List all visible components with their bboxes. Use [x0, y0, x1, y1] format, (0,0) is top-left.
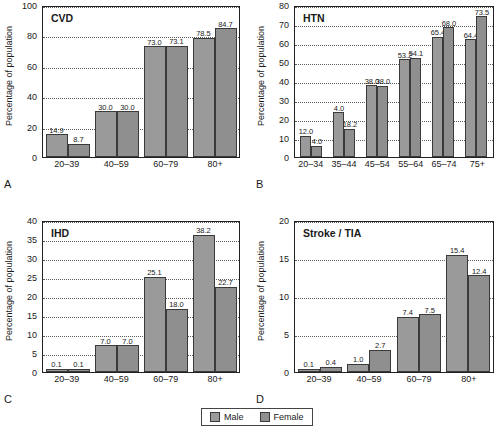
- y-tick-label: 40: [279, 77, 289, 87]
- bar-female: 12.4: [468, 275, 490, 372]
- legend-item-female: Female: [260, 412, 304, 422]
- bar-female: 8.7: [68, 144, 90, 157]
- y-tick-label: 20: [27, 123, 37, 133]
- bar-female: 7.5: [419, 314, 441, 372]
- bar-female: 7.0: [117, 345, 139, 372]
- y-tick-label: 60: [27, 62, 37, 72]
- x-tick-label: 55–64: [394, 159, 427, 169]
- bar-female: 4.0: [311, 146, 322, 157]
- x-tick-label: 60–79: [141, 374, 191, 384]
- y-tick-label: 10: [279, 292, 289, 302]
- y-axis-ticks-ihd: 0510152025303540: [14, 221, 40, 373]
- bar-value-label: 73.0: [147, 39, 162, 47]
- bar-group: 7.47.5: [394, 222, 444, 372]
- x-tick-label: 20–39: [294, 374, 344, 384]
- bar-value-label: 7.5: [425, 307, 435, 315]
- plot-area-cvd: CVD14.98.730.030.073.073.178.584.7: [42, 6, 240, 158]
- bar-value-label: 4.0: [334, 105, 344, 113]
- bar-female: 73.1: [166, 46, 188, 157]
- x-tick-label: 80+: [191, 159, 241, 169]
- bar-group: 0.10.1: [43, 222, 92, 372]
- bar-value-label: 12.4: [472, 268, 487, 276]
- bar-male: 0.1: [298, 369, 320, 372]
- bar-value-label: 2.7: [375, 342, 385, 350]
- x-tick-label: 35–44: [327, 159, 360, 169]
- x-axis-ticks-htn: 20–3435–4445–5455–6465–7475+: [294, 159, 494, 169]
- bar-group: 65.468.0: [427, 7, 460, 157]
- bar-female: 68.0: [443, 27, 454, 157]
- bar-male: 4.0: [333, 112, 344, 157]
- y-tick-label: 20: [279, 115, 289, 125]
- panel-ihd: Percentage of population0510152025303540…: [0, 215, 252, 425]
- bar-group: 30.030.0: [92, 7, 141, 157]
- bar-male: 12.0: [300, 136, 311, 157]
- bar-female: 2.7: [369, 350, 391, 372]
- bar-group: 38.038.0: [361, 7, 394, 157]
- bar-value-label: 7.4: [403, 309, 413, 317]
- x-tick-label: 20–34: [294, 159, 327, 169]
- bar-male: 73.0: [144, 46, 166, 157]
- x-tick-label: 40–59: [344, 374, 394, 384]
- bar-value-label: 38.2: [196, 227, 211, 235]
- panel-stroke-tia: Percentage of population05101520Stroke /…: [252, 215, 503, 425]
- legend-swatch-male: [210, 412, 220, 422]
- y-tick-label: 80: [27, 31, 37, 41]
- bar-value-label: 30.0: [120, 104, 135, 112]
- y-tick-label: 10: [27, 330, 37, 340]
- x-tick-label: 75+: [461, 159, 494, 169]
- bar-female: 84.7: [215, 28, 237, 157]
- x-tick-label: 45–54: [361, 159, 394, 169]
- bar-value-label: 1.0: [353, 356, 363, 364]
- bar-value-label: 0.4: [326, 359, 336, 367]
- plot-area-ihd: IHD0.10.17.07.025.118.038.222.7: [42, 221, 240, 373]
- bar-female: 0.4: [320, 367, 342, 372]
- y-tick-label: 0: [284, 153, 289, 163]
- bar-female: 18.0: [166, 309, 188, 372]
- bar-group: 78.584.7: [190, 7, 239, 157]
- bar-group: 14.98.7: [43, 7, 92, 157]
- bar-value-label: 12.0: [299, 128, 314, 136]
- bar-value-label: 18.0: [169, 301, 184, 309]
- bar-group: 12.04.0: [295, 7, 328, 157]
- bar-value-label: 30.0: [98, 104, 113, 112]
- y-tick-label: 10: [279, 134, 289, 144]
- bar-value-label: 68.0: [442, 20, 457, 28]
- legend-swatch-female: [260, 412, 270, 422]
- bar-value-label: 84.7: [218, 21, 233, 29]
- bar-group: 38.222.7: [190, 222, 239, 372]
- bar-group: 15.412.4: [444, 222, 494, 372]
- figure-root: Percentage of population020406080100CVD1…: [0, 0, 503, 435]
- bar-female: 18.2: [344, 129, 355, 158]
- bar-value-label: 25.1: [147, 269, 162, 277]
- bar-male: 15.4: [446, 255, 468, 372]
- bar-value-label: 73.5: [475, 9, 490, 17]
- y-tick-label: 30: [279, 96, 289, 106]
- plot-area-stroke-tia: Stroke / TIA0.10.41.02.77.47.515.412.4: [294, 221, 494, 373]
- y-tick-label: 5: [284, 330, 289, 340]
- y-tick-label: 35: [27, 235, 37, 245]
- panel-letter-c: C: [4, 393, 12, 405]
- bar-value-label: 7.0: [100, 338, 110, 346]
- y-tick-label: 0: [32, 368, 37, 378]
- bar-group: 7.07.0: [92, 222, 141, 372]
- bar-male: 38.0: [366, 85, 377, 157]
- panel-htn: Percentage of population0102030405060708…: [252, 0, 503, 210]
- bar-female: 73.5: [476, 16, 487, 157]
- bar-value-label: 0.1: [51, 361, 61, 369]
- x-axis-ticks-ihd: 20–3940–5960–7980+: [42, 374, 240, 384]
- bar-male: 14.9: [46, 134, 68, 157]
- bar-value-label: 0.1: [304, 361, 314, 369]
- bar-group: 53.254.1: [394, 7, 427, 157]
- bar-group: 4.018.2: [328, 7, 361, 157]
- bar-male: 7.4: [397, 317, 419, 372]
- legend-label-female: Female: [274, 412, 304, 422]
- x-tick-label: 65–74: [427, 159, 460, 169]
- y-tick-label: 20: [27, 292, 37, 302]
- x-tick-label: 40–59: [92, 374, 142, 384]
- y-tick-label: 15: [279, 254, 289, 264]
- y-tick-label: 0: [32, 153, 37, 163]
- bar-male: 25.1: [144, 277, 166, 372]
- x-tick-label: 40–59: [92, 159, 142, 169]
- bar-female: 30.0: [117, 111, 139, 157]
- bar-value-label: 18.2: [343, 121, 358, 129]
